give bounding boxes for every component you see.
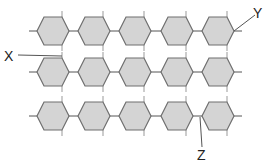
label-z-text: Z — [197, 147, 206, 163]
hexagon-unit — [78, 17, 110, 45]
hexagon-unit — [161, 17, 193, 45]
hexagon-unit — [119, 17, 151, 45]
hexagon-unit — [119, 102, 151, 130]
hexagon-unit — [78, 58, 110, 86]
hexagon-unit — [78, 102, 110, 130]
label-z: Z — [197, 117, 206, 163]
label-y: Y — [234, 5, 263, 31]
hexagon-unit — [161, 102, 193, 130]
hexagon-unit — [161, 58, 193, 86]
label-y-text: Y — [253, 5, 263, 21]
hexagon-unit — [202, 17, 234, 45]
hexagon-unit — [37, 102, 69, 130]
hexagon-unit — [202, 102, 234, 130]
hexagon-unit — [202, 58, 234, 86]
hexagon-unit — [37, 17, 69, 45]
hexagon-chains — [29, 11, 242, 136]
hexagon-unit — [119, 58, 151, 86]
hexagon-unit — [37, 58, 69, 86]
polymer-diagram: X Y Z — [0, 0, 266, 164]
label-x-text: X — [4, 48, 14, 64]
